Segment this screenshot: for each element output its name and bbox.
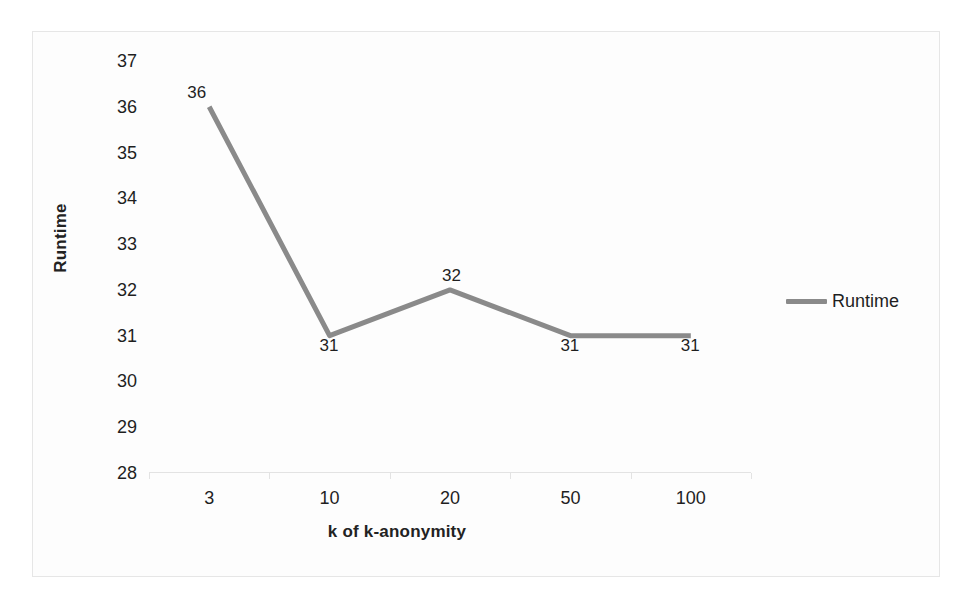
y-axis-tick-label: 32	[117, 279, 137, 300]
x-axis-tick-mark	[751, 473, 752, 479]
data-point-label: 31	[320, 336, 339, 356]
y-axis-tick-label: 31	[117, 325, 137, 346]
x-axis-tick-mark	[631, 473, 632, 479]
data-point-label: 31	[681, 336, 700, 356]
y-axis-tick-label: 37	[117, 51, 137, 72]
y-axis-tick-label: 34	[117, 188, 137, 209]
legend-swatch-runtime	[786, 299, 827, 304]
x-axis-tick-label: 50	[560, 488, 580, 509]
x-axis-tick-label: 10	[320, 488, 340, 509]
plot-area: 37363534333231302928 3102050100 36313231…	[149, 61, 751, 473]
data-point-label: 36	[187, 83, 206, 103]
x-axis-tick-mark	[390, 473, 391, 479]
x-axis-title: k of k-anonymity	[33, 522, 941, 542]
chart-container: Runtime k of k-anonymity 373635343332313…	[32, 31, 940, 577]
chart-legend: Runtime	[786, 291, 899, 312]
x-axis-tick-label: 3	[204, 488, 214, 509]
x-axis-tick-label: 20	[440, 488, 460, 509]
y-axis-tick-label: 35	[117, 142, 137, 163]
y-axis-tick-label: 28	[117, 463, 137, 484]
data-point-label: 31	[560, 336, 579, 356]
data-point-label: 32	[442, 266, 461, 286]
runtime-line-path	[209, 107, 691, 336]
y-axis-title: Runtime	[51, 158, 71, 318]
y-axis-tick-label: 36	[117, 96, 137, 117]
x-axis-tick-mark	[269, 473, 270, 479]
y-axis-tick-label: 29	[117, 417, 137, 438]
x-axis-tick-label: 100	[676, 488, 706, 509]
x-axis-tick-mark	[149, 473, 150, 479]
y-axis-tick-label: 33	[117, 234, 137, 255]
legend-label-runtime: Runtime	[832, 291, 899, 312]
y-axis-tick-label: 30	[117, 371, 137, 392]
x-axis-tick-mark	[510, 473, 511, 479]
